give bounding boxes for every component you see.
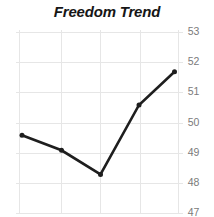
y-axis-tick-label: 53 xyxy=(188,25,200,37)
y-axis-tick-label: 47 xyxy=(188,206,200,217)
y-axis-tick-label: 50 xyxy=(188,116,200,128)
chart-card: Freedom Trend 53525150494847 xyxy=(0,0,214,217)
data-point-marker xyxy=(20,133,25,138)
data-point-marker xyxy=(137,102,142,107)
data-point-marker xyxy=(172,69,177,74)
y-axis-tick-label: 48 xyxy=(188,176,200,188)
y-axis-tick-label: 52 xyxy=(188,55,200,67)
y-axis-tick-label: 49 xyxy=(188,146,200,158)
freedom-trend-line-chart: 53525150494847 xyxy=(0,0,214,217)
data-point-marker xyxy=(98,172,103,177)
data-point-marker xyxy=(59,148,64,153)
y-axis-tick-label: 51 xyxy=(188,85,200,97)
